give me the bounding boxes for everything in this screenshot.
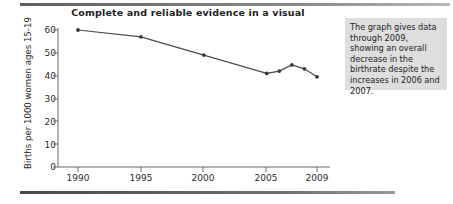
data-point-2005 [265,71,269,75]
data-point-2000 [202,53,206,57]
x-axis-ticks [78,167,317,172]
chart-plot-area: Births per 1000 women ages 15-19 60 50 4… [0,0,340,190]
bottom-divider-rule [20,191,395,194]
y-axis-ticks [53,30,58,167]
line-chart-svg [0,0,340,190]
annotation-callout: The graph gives data through 2009, showi… [345,18,447,90]
data-series-line [78,30,317,77]
data-point-2008 [303,67,307,71]
data-point-2006 [277,69,281,73]
data-point-2009 [315,75,319,79]
annotation-text: The graph gives data through 2009, showi… [350,22,444,96]
data-point-1995 [139,35,143,39]
data-point-1990 [76,28,80,32]
data-point-2007 [290,63,294,67]
figure-container: Complete and reliable evidence in a visu… [0,0,453,204]
